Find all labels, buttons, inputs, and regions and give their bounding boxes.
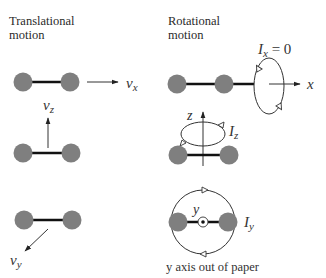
atom [61,73,80,92]
vy-label: vy [10,252,22,270]
rotation-x-molecule: x Ix = 0 [168,41,315,114]
atom [14,144,33,163]
atom [168,75,187,94]
z-axis-label: z [186,108,193,123]
atom [219,213,238,232]
translational-z-molecule: vz [14,97,81,163]
iy-label: Iy [243,214,254,232]
x-axis-label: x [306,76,314,92]
atom [63,211,82,230]
vx-label: vx [126,75,138,93]
molecule-motion-diagram: vx vz vy x Ix = 0 z Iz [0,0,326,278]
y-axis-dot [201,220,205,224]
translational-x-molecule: vx [14,73,138,94]
y-axis-caption: y axis out of paper [166,260,260,274]
rotation-direction-arrow-icon [254,64,262,72]
translational-y-molecule: vy [10,211,82,271]
velocity-y-arrow-icon [25,229,48,251]
rotation-direction-arrow-icon [200,251,206,257]
rotation-direction-arrow-icon [218,122,224,128]
atom [15,211,34,230]
atom [14,73,33,92]
y-axis-label: y [191,202,200,217]
rotation-z-molecule: z Iz [169,108,240,166]
iz-label: Iz [228,123,239,141]
atom [215,75,234,94]
atom [62,144,81,163]
rotation-y-molecule: y Iy y axis out of paper [166,187,260,274]
atom [169,213,188,232]
ix-label: Ix = 0 [257,41,291,59]
atom [220,146,239,165]
rotation-direction-arrow-icon [202,187,208,193]
vz-label: vz [43,97,55,115]
atom [169,146,188,165]
